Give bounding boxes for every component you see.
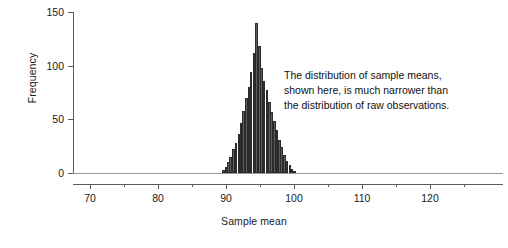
histogram-figure: Frequency 050100150 708090100110120 Samp… — [0, 0, 508, 248]
histogram-bars — [0, 0, 508, 248]
histogram-bar — [293, 171, 296, 173]
annotation-line: shown here, is much narrower than — [284, 83, 502, 98]
chart-annotation: The distribution of sample means,shown h… — [284, 68, 502, 113]
annotation-line: The distribution of sample means, — [284, 68, 502, 83]
annotation-line: the distribution of raw observations. — [284, 98, 502, 113]
